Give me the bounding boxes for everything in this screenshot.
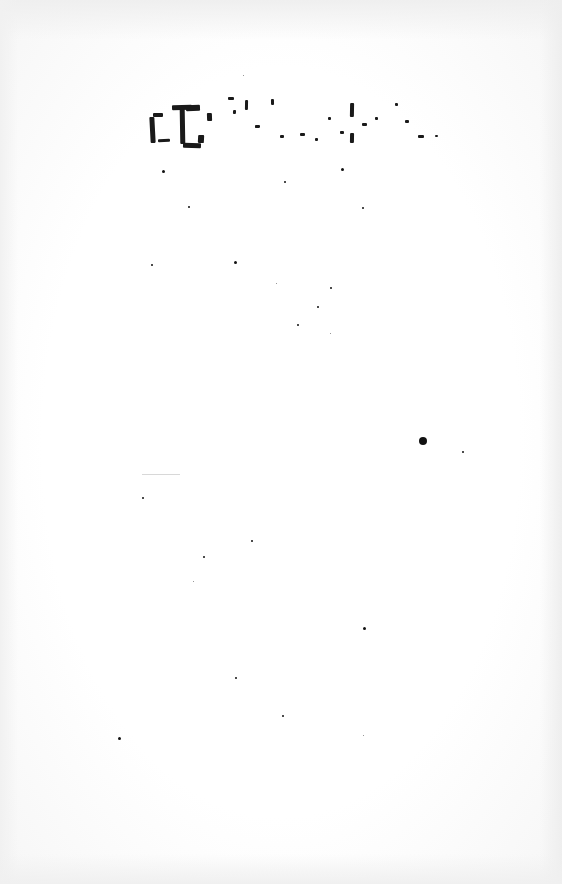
speck <box>363 627 366 630</box>
scan-edge-shadow-bottom <box>0 854 562 884</box>
speck <box>363 735 364 736</box>
ink-mark <box>255 125 260 128</box>
speck <box>330 333 331 334</box>
ink-mark <box>186 105 200 111</box>
ink-mark <box>340 131 344 134</box>
scan-edge-shadow-right <box>540 0 562 884</box>
scan-edge-shadow-left <box>0 0 18 884</box>
speck <box>243 75 244 76</box>
speck <box>118 737 121 740</box>
speck <box>284 181 286 183</box>
speck <box>234 261 237 264</box>
speck <box>341 168 344 171</box>
speck <box>330 287 332 289</box>
ink-mark <box>271 99 274 105</box>
ink-mark <box>158 139 170 142</box>
scan-edge-shadow-top <box>0 0 562 40</box>
ink-mark <box>183 143 201 149</box>
faint-rule-line <box>142 474 180 475</box>
ink-mark <box>228 97 234 100</box>
speck <box>251 540 253 542</box>
scanned-page: [illegible degraded text] <box>0 0 562 884</box>
ink-mark <box>405 120 409 123</box>
speck <box>142 497 144 499</box>
speck <box>362 207 364 209</box>
speck <box>419 437 427 445</box>
speck <box>151 264 153 266</box>
ink-mark <box>375 117 378 120</box>
speck <box>203 556 205 558</box>
ink-mark <box>315 138 318 141</box>
ink-mark <box>300 133 305 136</box>
ink-mark <box>418 135 424 138</box>
ink-mark <box>395 103 398 106</box>
ink-mark <box>362 123 367 126</box>
ink-mark <box>245 100 248 110</box>
speck <box>282 715 284 717</box>
ink-mark <box>350 103 354 117</box>
speck <box>462 451 464 453</box>
ink-mark <box>435 135 438 137</box>
ink-mark <box>149 117 155 143</box>
speck <box>235 677 237 679</box>
speck <box>297 324 299 326</box>
ink-mark <box>153 113 163 117</box>
speck <box>276 283 277 284</box>
speck <box>317 306 319 308</box>
speck <box>193 581 194 582</box>
speck <box>188 206 190 208</box>
degraded-title: [illegible degraded text] <box>150 95 450 150</box>
ink-mark <box>280 135 284 138</box>
ink-mark <box>207 113 212 121</box>
ink-mark <box>180 109 186 144</box>
ink-mark <box>198 135 204 143</box>
ink-mark <box>328 117 331 120</box>
ink-mark <box>233 110 236 114</box>
ink-mark <box>350 133 354 143</box>
speck <box>162 170 165 173</box>
